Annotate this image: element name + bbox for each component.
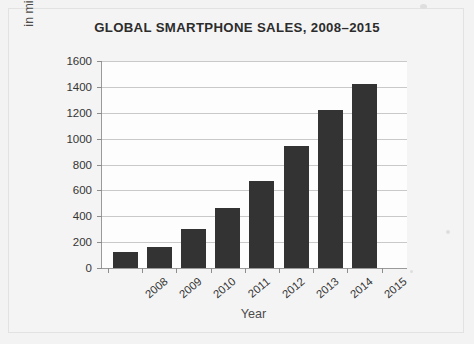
scan-speck [446,230,450,234]
y-axis-label: 1200 [48,107,92,119]
y-axis-label: 1400 [48,81,92,93]
x-axis-tick [176,268,177,273]
y-axis-label: 1600 [48,55,92,67]
bar [318,110,343,268]
gridline [102,61,407,62]
bar [352,84,377,268]
x-axis-tick [313,268,314,273]
y-axis-label: 0 [48,262,92,274]
bar [284,146,309,268]
y-axis-tick [97,87,102,88]
y-axis-label: 1000 [48,133,92,145]
y-axis-tick [97,216,102,217]
x-axis-tick [211,268,212,273]
bar [215,208,240,268]
y-axis-label: 200 [48,236,92,248]
bar [147,247,172,268]
y-axis-label: 600 [48,184,92,196]
bar [249,181,274,268]
bar [113,252,138,268]
x-axis-tick [142,268,143,273]
y-axis-tick [97,268,102,269]
y-axis-tick [97,190,102,191]
y-axis-tick [97,139,102,140]
x-axis-tick [108,268,109,273]
scanned-page: GLOBAL SMARTPHONE SALES, 2008–2015 in mi… [0,0,474,344]
y-axis-label: 800 [48,159,92,171]
x-axis-tick [245,268,246,273]
scan-speck [420,4,427,9]
y-axis-tick [97,113,102,114]
x-axis-tick [382,268,383,273]
scan-speck [410,270,413,273]
y-axis-tick [97,61,102,62]
x-axis-tick [279,268,280,273]
y-axis-tick [97,165,102,166]
x-axis-tick [347,268,348,273]
bar [181,229,206,268]
plot-area [101,61,407,269]
y-axis-label: 400 [48,210,92,222]
chart-title: GLOBAL SMARTPHONE SALES, 2008–2015 [0,20,474,35]
y-axis-title: in millions of smartphones [22,0,40,60]
y-axis-tick [97,242,102,243]
x-axis-title: Year [101,307,406,321]
